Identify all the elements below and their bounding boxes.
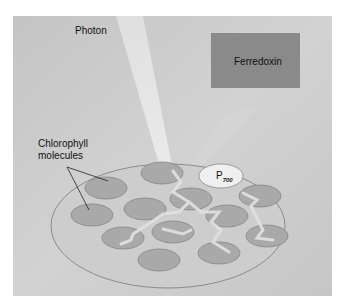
ferredoxin-label: Ferredoxin <box>234 56 282 68</box>
chlorophyll-label-line2: molecules <box>38 150 83 162</box>
p700-label-main: P <box>216 170 223 181</box>
diagram-panel: Photon Ferredoxin Chlorophyll molecules … <box>13 16 332 296</box>
photon-label: Photon <box>75 25 107 37</box>
chlorophyll-label-line1: Chlorophyll <box>38 138 88 150</box>
p700-label: P700 <box>216 170 233 186</box>
p700-label-subscript: 700 <box>223 177 233 183</box>
